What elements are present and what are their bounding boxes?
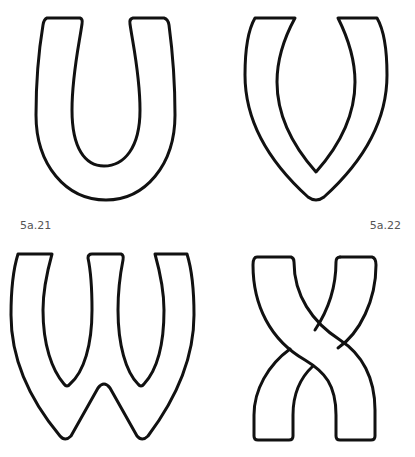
letter-x-outline [253,257,375,440]
figure-label-5a-21: 5a.21 [20,219,51,232]
letter-x-outline-second-band-inner [315,257,340,330]
letter-u-outline [36,18,175,200]
letter-x-outline-second-band-lower [254,349,313,440]
letter-v-outline [245,18,387,200]
letter-w-outline [11,254,194,439]
letter-outlines [0,0,415,457]
letter-x-outline-second-band [338,257,376,348]
figure-label-5a-22: 5a.22 [370,219,401,232]
